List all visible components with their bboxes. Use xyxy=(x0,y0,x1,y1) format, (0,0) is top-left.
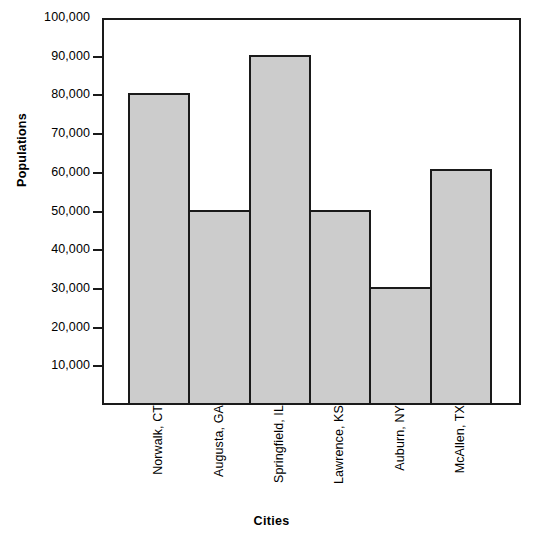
bar xyxy=(188,210,250,404)
y-axis-tick-mark xyxy=(93,327,102,329)
bar-chart: Populations 10,00020,00030,00040,00050,0… xyxy=(0,0,543,546)
y-axis-tick-label: 60,000 xyxy=(51,165,90,179)
bar xyxy=(369,287,431,403)
y-axis-tick-label: 20,000 xyxy=(51,320,90,334)
bar xyxy=(430,169,492,403)
y-axis-tick-label: 90,000 xyxy=(51,49,90,63)
y-axis-tick-mark xyxy=(93,56,102,58)
x-axis-tick-label: Auburn, NY xyxy=(390,405,410,510)
x-axis-tick-label: Augusta, GA xyxy=(209,405,229,510)
bar xyxy=(249,55,311,403)
y-axis-tick-mark xyxy=(93,94,102,96)
x-axis-tick-label: Springfield, IL xyxy=(269,405,289,510)
y-axis-tick-mark xyxy=(93,172,102,174)
y-axis-tick-label: 50,000 xyxy=(51,204,90,218)
x-axis-tick-label: Norwalk, CT xyxy=(148,405,168,510)
y-axis-tick-mark xyxy=(93,133,102,135)
y-axis-tick-mark xyxy=(93,288,102,290)
y-axis-tick-mark xyxy=(93,249,102,251)
y-axis-tick-label: 80,000 xyxy=(51,87,90,101)
y-axis-tick-label: 70,000 xyxy=(51,126,90,140)
x-axis-tick-label: Lawrence, KS xyxy=(329,405,349,510)
x-axis-tick-labels: Norwalk, CTAugusta, GASpringfield, ILLaw… xyxy=(0,405,543,515)
x-axis-title: Cities xyxy=(0,514,543,528)
y-axis-tick-mark xyxy=(93,211,102,213)
bars-layer xyxy=(104,20,519,403)
x-axis-tick-label: McAllen, TX xyxy=(450,405,470,510)
bar xyxy=(128,93,190,403)
y-axis-tick-label: 30,000 xyxy=(51,281,90,295)
y-axis-tick-label: 100,000 xyxy=(44,10,90,24)
y-axis: 10,00020,00030,00040,00050,00060,00070,0… xyxy=(0,18,102,405)
y-axis-tick-label: 40,000 xyxy=(51,242,90,256)
y-axis-tick-label: 10,000 xyxy=(51,358,90,372)
bar xyxy=(309,210,371,404)
plot-area xyxy=(102,18,521,405)
y-axis-tick-mark xyxy=(93,365,102,367)
